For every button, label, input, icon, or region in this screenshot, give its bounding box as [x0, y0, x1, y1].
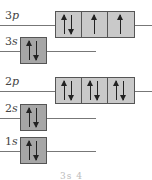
- orbital: [108, 12, 134, 37]
- principal-number: 2: [5, 75, 12, 88]
- energy-line-right: [47, 151, 96, 152]
- spin-down-arrow-icon: [123, 81, 124, 100]
- energy-line-left: [0, 25, 55, 26]
- principal-number: 2: [5, 102, 12, 115]
- energy-level-3s: 3s: [0, 37, 152, 64]
- orbital: [82, 78, 108, 103]
- spin-up-arrow-icon: [29, 108, 30, 127]
- spin-up-arrow-icon: [29, 41, 30, 60]
- spin-up-arrow-icon: [29, 141, 30, 160]
- orbital-box-3p: [55, 11, 135, 38]
- energy-line-right: [135, 25, 152, 26]
- principal-number: 3: [5, 9, 12, 22]
- spin-down-arrow-icon: [71, 15, 72, 34]
- orbital-box-2s: [20, 104, 47, 131]
- energy-level-2s: 2s: [0, 104, 152, 131]
- spin-up-arrow-icon: [116, 81, 117, 100]
- energy-line-left: [0, 151, 20, 152]
- orbital: [56, 78, 82, 103]
- orbital: [21, 38, 46, 63]
- energy-line-left: [0, 91, 55, 92]
- orbital: [21, 138, 46, 163]
- spin-down-arrow-icon: [36, 141, 37, 160]
- energy-level-3p: 3p: [0, 11, 152, 38]
- orbital-box-1s: [20, 137, 47, 164]
- spin-up-arrow-icon: [94, 15, 95, 34]
- orbital-box-2p: [55, 77, 135, 104]
- spin-up-arrow-icon: [64, 81, 65, 100]
- spin-up-arrow-icon: [120, 15, 121, 34]
- orbital: [82, 12, 108, 37]
- energy-line-right: [47, 51, 96, 52]
- energy-line-left: [0, 51, 20, 52]
- caption-text: 3s 4: [60, 171, 83, 180]
- spin-down-arrow-icon: [36, 41, 37, 60]
- energy-level-1s: 1s: [0, 137, 152, 164]
- level-label: 3s: [5, 36, 18, 47]
- subshell-letter: s: [12, 135, 18, 148]
- principal-number: 3: [5, 35, 12, 48]
- subshell-letter: s: [12, 35, 18, 48]
- orbital: [56, 12, 82, 37]
- level-label: 2s: [5, 103, 18, 114]
- level-label: 2p: [5, 76, 19, 87]
- orbital: [108, 78, 134, 103]
- level-label: 3p: [5, 10, 19, 21]
- energy-level-2p: 2p: [0, 77, 152, 104]
- spin-up-arrow-icon: [64, 15, 65, 34]
- energy-line-left: [0, 118, 20, 119]
- principal-number: 1: [5, 135, 12, 148]
- spin-down-arrow-icon: [97, 81, 98, 100]
- spin-down-arrow-icon: [71, 81, 72, 100]
- subshell-letter: s: [12, 102, 18, 115]
- energy-line-right: [135, 91, 152, 92]
- spin-down-arrow-icon: [36, 108, 37, 127]
- subshell-letter: p: [12, 75, 19, 88]
- level-label: 1s: [5, 136, 18, 147]
- energy-line-right: [47, 118, 96, 119]
- orbital: [21, 105, 46, 130]
- spin-up-arrow-icon: [90, 81, 91, 100]
- orbital-box-3s: [20, 37, 47, 64]
- subshell-letter: p: [12, 9, 19, 22]
